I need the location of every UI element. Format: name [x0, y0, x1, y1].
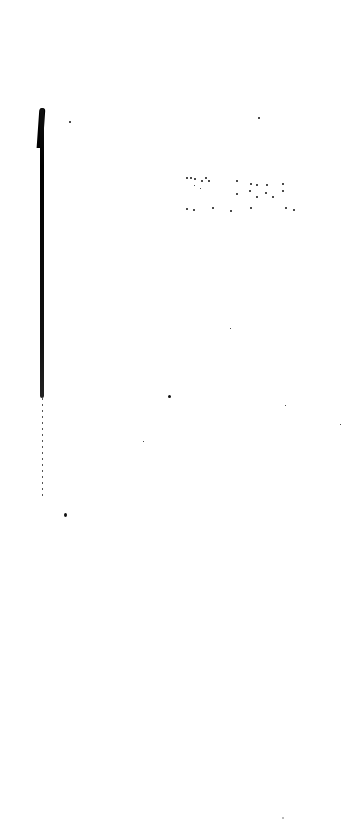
speck: [340, 424, 341, 425]
speck: [230, 328, 231, 329]
speck: [64, 513, 67, 517]
binding-edge-dotted: [42, 398, 43, 498]
speck: [69, 121, 71, 123]
speck: [168, 395, 171, 398]
speck: [285, 405, 286, 406]
speck: [282, 817, 284, 819]
scanned-page: [0, 0, 349, 825]
binding-edge: [40, 108, 44, 398]
speck: [258, 117, 260, 119]
speck: [143, 441, 144, 442]
